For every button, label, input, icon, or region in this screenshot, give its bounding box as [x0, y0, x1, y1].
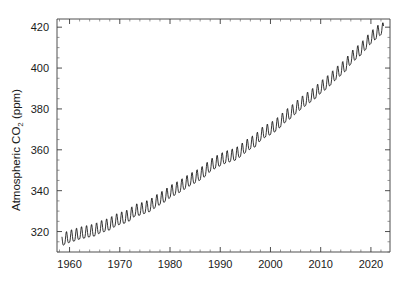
y-tick-label: 340 — [31, 185, 49, 197]
x-tick-label: 1990 — [208, 258, 232, 270]
chart-background — [0, 0, 402, 295]
x-tick-label: 1970 — [108, 258, 132, 270]
y-tick-label: 360 — [31, 144, 49, 156]
x-tick-label: 2010 — [308, 258, 332, 270]
x-tick-label: 2000 — [258, 258, 282, 270]
y-tick-label: 420 — [31, 21, 49, 33]
x-tick-label: 2020 — [359, 258, 383, 270]
x-tick-label: 1960 — [57, 258, 81, 270]
co2-chart-figure: 1960197019801990200020102020 32034036038… — [0, 0, 402, 295]
y-tick-label: 380 — [31, 103, 49, 115]
x-tick-label: 1980 — [158, 258, 182, 270]
chart-canvas: 1960197019801990200020102020 32034036038… — [0, 0, 402, 295]
y-tick-label: 320 — [31, 226, 49, 238]
y-tick-label: 400 — [31, 62, 49, 74]
